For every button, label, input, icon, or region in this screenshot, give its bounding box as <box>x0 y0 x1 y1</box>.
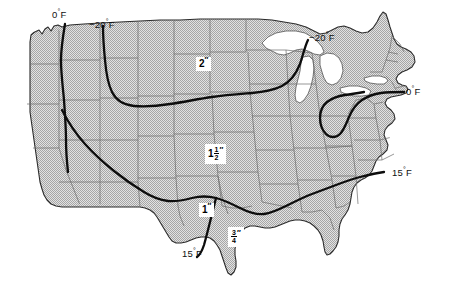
temp-label-15f-texas: 15°F <box>182 249 202 259</box>
temp-label-minus20f-greatlakes: −20°F <box>309 33 335 43</box>
thickness-label-two-inch: 2″ <box>196 57 211 71</box>
temp-label-minus20f-northwest: −20°F <box>89 20 115 30</box>
temp-label-0f-northwest: 0°F <box>52 10 67 20</box>
frost-depth-map: 0°F −20°F −20°F 0°F 15°F 15°F 2″ 112″ 1″… <box>0 0 453 303</box>
thickness-label-one-and-half-inch: 112″ <box>205 144 226 164</box>
thickness-label-one-inch: 1″ <box>199 203 214 217</box>
us-map-graphic <box>0 0 453 303</box>
temp-label-15f-southeast: 15°F <box>392 168 412 178</box>
temp-label-0f-northeast: 0°F <box>406 87 421 97</box>
thickness-label-three-quarter-inch: 34″ <box>228 227 244 247</box>
